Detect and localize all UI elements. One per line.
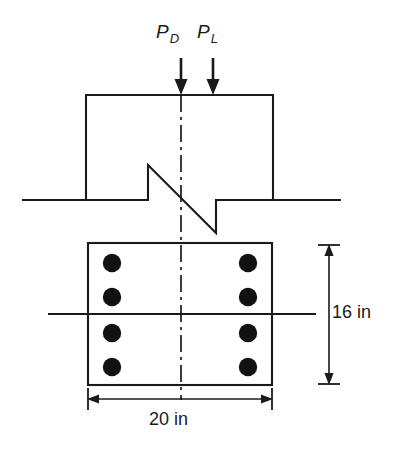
- rebar-bar: [103, 324, 121, 342]
- rebar-bar: [103, 288, 121, 306]
- height-dimension-label: 16 in: [332, 302, 371, 323]
- live-load-subscript: L: [210, 31, 218, 46]
- break-line: [86, 165, 273, 233]
- live-load-arrow: [207, 58, 220, 95]
- dead-load-arrow: [175, 58, 188, 95]
- rebar-bar: [239, 288, 257, 306]
- dead-load-label: PD: [156, 21, 179, 46]
- column-section-diagram: [0, 0, 405, 458]
- width-dimension-label: 20 in: [149, 409, 188, 430]
- dead-load-symbol: P: [156, 21, 169, 42]
- rebar-bar: [103, 254, 121, 272]
- dead-load-subscript: D: [169, 31, 179, 46]
- rebar-bar: [239, 254, 257, 272]
- width-dimension: [87, 388, 273, 410]
- rebar-bar: [103, 358, 121, 376]
- rebar-bar: [239, 324, 257, 342]
- rebar-bar: [239, 358, 257, 376]
- column-outline: [86, 95, 273, 200]
- live-load-symbol: P: [197, 21, 210, 42]
- live-load-label: PL: [197, 21, 218, 46]
